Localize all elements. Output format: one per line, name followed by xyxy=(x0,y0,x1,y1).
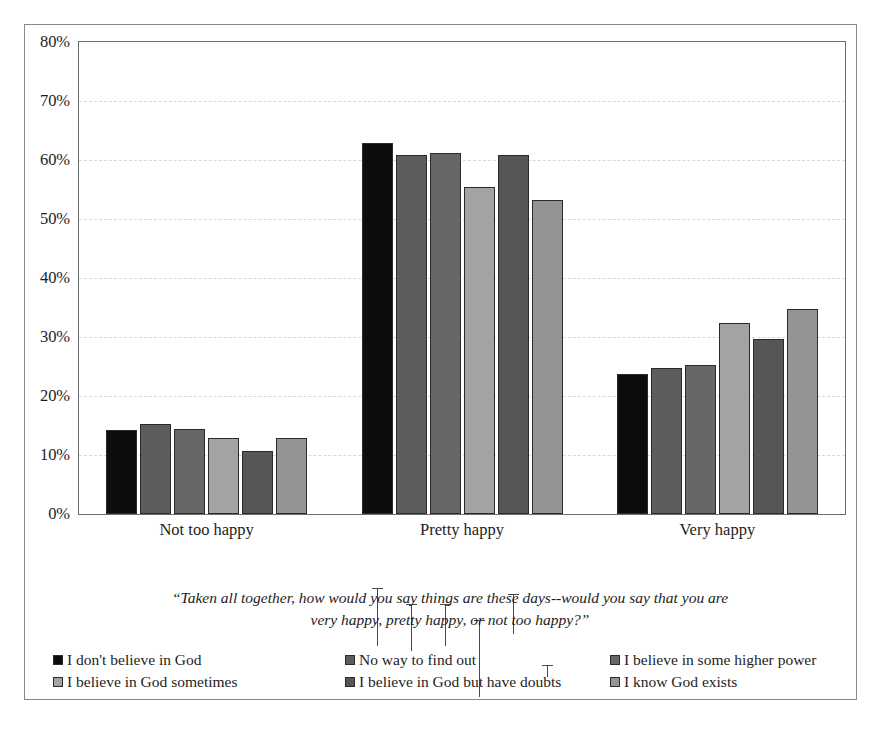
legend-swatch-icon xyxy=(53,677,63,687)
bar[interactable] xyxy=(276,438,307,514)
legend-item-label: I don't believe in God xyxy=(67,652,202,668)
x-tick-label: Not too happy xyxy=(159,522,253,539)
gridline xyxy=(79,219,845,220)
bar[interactable] xyxy=(719,323,750,514)
legend-item[interactable]: I believe in God sometimes xyxy=(53,674,237,690)
y-tick-label: 0% xyxy=(18,506,70,523)
y-tick-label: 80% xyxy=(18,34,70,51)
y-tick-label: 10% xyxy=(18,447,70,464)
legend-item-label: I believe in some higher power xyxy=(624,652,816,668)
bar[interactable] xyxy=(532,200,563,514)
y-tick-label: 30% xyxy=(18,329,70,346)
x-axis-tick-labels: Not too happyPretty happyVery happy xyxy=(78,522,846,548)
legend-item-label: No way to find out xyxy=(359,652,476,668)
legend-item-label: I believe in God sometimes xyxy=(67,674,237,690)
bar[interactable] xyxy=(430,153,461,514)
bar[interactable] xyxy=(106,430,137,514)
gridline xyxy=(79,278,845,279)
chart-legend: I don't believe in GodNo way to find out… xyxy=(53,652,843,698)
legend-swatch-icon xyxy=(610,655,620,665)
bar[interactable] xyxy=(140,424,171,514)
plot-area xyxy=(79,42,845,514)
legend-item[interactable]: No way to find out xyxy=(345,652,476,668)
x-tick-label: Very happy xyxy=(680,522,756,539)
chart-caption: “Taken all together, how would you say t… xyxy=(140,587,760,631)
legend-swatch-icon xyxy=(345,677,355,687)
gridline xyxy=(79,101,845,102)
caption-line-1: “Taken all together, how would you say t… xyxy=(140,587,760,609)
bar[interactable] xyxy=(685,365,716,514)
figure-frame: 0%10%20%30%40%50%60%70%80% Not too happy… xyxy=(24,24,857,700)
bar[interactable] xyxy=(174,429,205,514)
legend-swatch-icon xyxy=(610,677,620,687)
bar[interactable] xyxy=(651,368,682,514)
legend-item[interactable]: I believe in God but have doubts xyxy=(345,674,561,690)
y-axis-tick-labels: 0%10%20%30%40%50%60%70%80% xyxy=(25,41,74,515)
bar[interactable] xyxy=(787,309,818,514)
y-tick-label: 20% xyxy=(18,388,70,405)
bar[interactable] xyxy=(242,451,273,514)
legend-swatch-icon xyxy=(345,655,355,665)
y-tick-label: 60% xyxy=(18,152,70,169)
y-tick-label: 40% xyxy=(18,270,70,287)
bar[interactable] xyxy=(208,438,239,514)
caption-line-2: very happy, pretty happy, or not too hap… xyxy=(140,609,760,631)
x-tick-label: Pretty happy xyxy=(420,522,504,539)
legend-item-label: I know God exists xyxy=(624,674,737,690)
bar[interactable] xyxy=(464,187,495,514)
bar[interactable] xyxy=(396,155,427,514)
y-tick-label: 50% xyxy=(18,211,70,228)
y-tick-label: 70% xyxy=(18,93,70,110)
legend-item[interactable]: I don't believe in God xyxy=(53,652,202,668)
gridline xyxy=(79,160,845,161)
bar[interactable] xyxy=(362,143,393,514)
bar[interactable] xyxy=(753,339,784,514)
bar[interactable] xyxy=(617,374,648,514)
legend-item[interactable]: I believe in some higher power xyxy=(610,652,816,668)
plot-area-frame xyxy=(78,41,846,515)
legend-item[interactable]: I know God exists xyxy=(610,674,737,690)
legend-swatch-icon xyxy=(53,655,63,665)
bar[interactable] xyxy=(498,155,529,514)
legend-item-label: I believe in God but have doubts xyxy=(359,674,561,690)
